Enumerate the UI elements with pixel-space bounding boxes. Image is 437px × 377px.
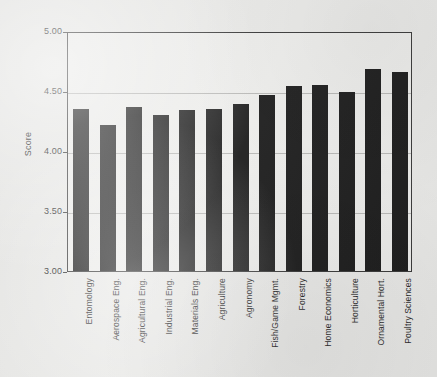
y-tick-label: 5.00 — [20, 26, 62, 36]
plot-area — [67, 32, 412, 272]
bar — [339, 92, 355, 271]
x-tick-label: Industrial Eng. — [164, 278, 174, 335]
x-tick-label: Agronomy — [244, 278, 254, 318]
x-tick-label: Fish/Game Mgmt. — [270, 278, 280, 348]
bar — [206, 109, 222, 271]
bar — [73, 109, 89, 271]
x-tick-label: Home Economics — [323, 278, 333, 347]
y-tick-label: 3.50 — [20, 206, 62, 216]
bar — [179, 110, 195, 271]
bar — [286, 86, 302, 271]
bar-chart-figure: 3.003.504.004.505.00 Score EntomologyAer… — [0, 0, 437, 377]
x-tick-label: Poultry Sciences — [403, 278, 413, 344]
bar — [233, 104, 249, 271]
x-tick-label: Materials Eng. — [190, 278, 200, 334]
bar — [259, 95, 275, 271]
y-tick-label: 4.50 — [20, 86, 62, 96]
bar — [126, 107, 142, 271]
x-tick-label: Horticulture — [350, 278, 360, 323]
x-tick-label: Aerospace Eng. — [111, 278, 121, 341]
bars-group — [68, 33, 411, 271]
x-tick-label: Forestry — [297, 278, 307, 310]
x-tick-label: Entomology — [84, 278, 94, 324]
bar — [100, 125, 116, 271]
bar — [312, 85, 328, 271]
x-axis: EntomologyAerospace Eng.Agricultural Eng… — [0, 272, 437, 377]
x-tick-label: Agricultural Eng. — [137, 278, 147, 343]
bar — [392, 72, 408, 271]
x-tick-label: Agriculture — [217, 278, 227, 320]
bar — [365, 69, 381, 271]
x-tick-label: Ornamental Hort. — [376, 278, 386, 346]
bar — [153, 115, 169, 271]
y-axis-title: Score — [23, 114, 33, 174]
